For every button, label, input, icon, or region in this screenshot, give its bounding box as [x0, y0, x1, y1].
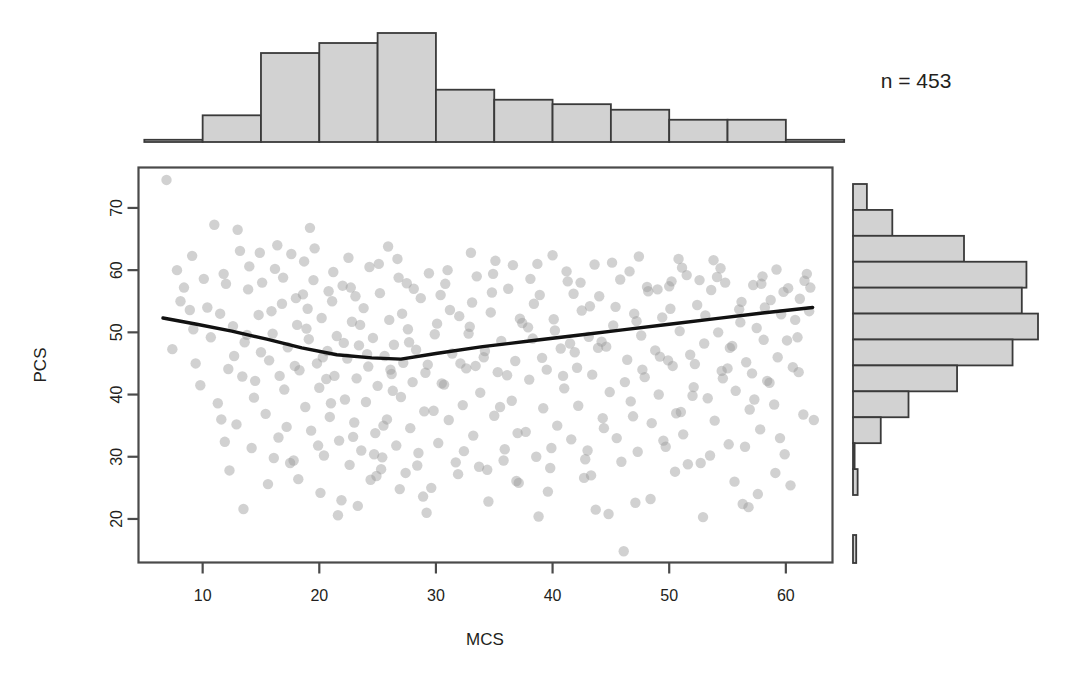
scatter-point	[161, 175, 171, 185]
scatter-point	[642, 282, 652, 292]
scatter-point	[199, 274, 209, 284]
scatter-point	[792, 332, 802, 342]
scatter-point	[220, 437, 230, 447]
scatter-point	[395, 484, 405, 494]
scatter-point	[459, 446, 469, 456]
scatter-point	[325, 412, 335, 422]
scatter-point	[542, 364, 552, 374]
scatter-point	[619, 546, 629, 556]
scatter-point	[488, 269, 498, 279]
scatter-point	[179, 282, 189, 292]
scatter-point	[253, 310, 263, 320]
scatter-point	[466, 248, 476, 258]
scatter-point	[412, 460, 422, 470]
scatter-point	[666, 276, 676, 286]
scatter-point	[616, 457, 626, 467]
right-hist-bar	[853, 210, 892, 236]
scatter-point	[190, 358, 200, 368]
scatter-point	[413, 448, 423, 458]
scatter-point	[269, 453, 279, 463]
scatter-point	[525, 274, 535, 284]
scatter-point	[633, 447, 643, 457]
scatter-point	[511, 476, 521, 486]
scatter-point	[383, 241, 393, 251]
scatter-point	[744, 404, 754, 414]
scatter-point	[575, 277, 585, 287]
scatter-point	[274, 371, 284, 381]
scatter-point	[533, 511, 543, 521]
scatter-point	[515, 313, 525, 323]
scatter-point	[630, 498, 640, 508]
scatter-point	[339, 338, 349, 348]
scatter-point	[167, 344, 177, 354]
scatter-point	[407, 377, 417, 387]
top-hist-bar	[553, 104, 611, 142]
top-hist-bar	[611, 110, 669, 142]
y-tick-label: 60	[108, 261, 125, 279]
scatter-point	[531, 452, 541, 462]
scatter-point	[348, 432, 358, 442]
scatter-point	[455, 358, 465, 368]
scatter-point	[278, 272, 288, 282]
scatter-point	[458, 400, 468, 410]
y-tick-label: 50	[108, 323, 125, 341]
scatter-point	[472, 271, 482, 281]
scatter-point	[432, 318, 442, 328]
scatter-point	[624, 266, 634, 276]
scatter-point	[483, 496, 493, 506]
scatter-point	[224, 465, 234, 475]
scatter-point	[374, 259, 384, 269]
scatter-point	[402, 278, 412, 288]
scatter-point	[498, 455, 508, 465]
scatter-point	[216, 414, 226, 424]
scatter-point	[751, 323, 761, 333]
scatter-point	[369, 449, 379, 459]
scatter-point	[685, 350, 695, 360]
scatter-point	[358, 303, 368, 313]
scatter-point	[389, 340, 399, 350]
scatter-point	[232, 225, 242, 235]
scatter-point	[376, 464, 386, 474]
scatter-point	[696, 458, 706, 468]
scatter-point	[246, 443, 256, 453]
scatter-point	[313, 440, 323, 450]
scatter-point	[778, 287, 788, 297]
scatter-point	[573, 401, 583, 411]
scatter-point	[626, 396, 636, 406]
scatter-point	[433, 438, 443, 448]
scatter-point	[622, 355, 632, 365]
scatter-point	[172, 265, 182, 275]
scatter-point	[309, 243, 319, 253]
x-tick-label: 40	[544, 587, 562, 604]
scatter-point	[675, 326, 685, 336]
scatter-point	[405, 423, 415, 433]
scatter-point	[798, 409, 808, 419]
scatter-point	[508, 260, 518, 270]
top-hist-bar	[728, 120, 786, 142]
scatter-point	[580, 454, 590, 464]
scatter-point	[319, 450, 329, 460]
x-axis-title: MCS	[466, 630, 504, 649]
scatter-point	[304, 334, 314, 344]
scatter-point	[683, 459, 693, 469]
scatter-point	[305, 223, 315, 233]
scatter-point	[687, 391, 697, 401]
y-tick-label: 20	[108, 510, 125, 528]
scatter-point	[543, 486, 553, 496]
scatter-point	[645, 494, 655, 504]
scatter-point	[306, 425, 316, 435]
scatter-point	[678, 429, 688, 439]
scatter-point	[388, 386, 398, 396]
scatter-point	[489, 411, 499, 421]
scatter-point	[315, 488, 325, 498]
scatter-point	[747, 368, 757, 378]
scatter-point	[361, 397, 371, 407]
scatter-point	[561, 266, 571, 276]
scatter-point	[779, 449, 789, 459]
scatter-point	[272, 240, 282, 250]
scatter-point	[749, 394, 759, 404]
y-axis: 203040506070	[108, 199, 139, 528]
scatter-point	[706, 285, 716, 295]
top-hist-bar	[669, 120, 727, 142]
scatter-point	[612, 433, 622, 443]
